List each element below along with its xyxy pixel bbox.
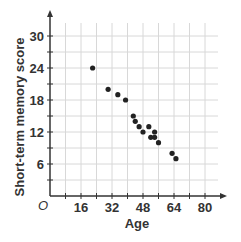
data-point (123, 97, 128, 102)
data-point (146, 124, 151, 129)
origin-label: O (38, 198, 48, 213)
data-point (140, 129, 145, 134)
data-point (169, 151, 174, 156)
y-tick-label: 30 (30, 29, 44, 44)
data-point (156, 140, 161, 145)
data-point (115, 92, 120, 97)
scatter-chart: 1632486480 612182430 O Age Short-term me… (0, 0, 241, 242)
y-tick-label: 18 (30, 93, 44, 108)
y-axis-arrow-icon (47, 10, 53, 17)
x-axis-arrow-icon (220, 193, 227, 199)
x-tick-label: 80 (198, 200, 212, 215)
y-tick-label: 24 (30, 61, 45, 76)
y-axis-title: Short-term memory score (12, 38, 27, 197)
x-tick-label: 16 (74, 200, 88, 215)
grid-lines (50, 23, 218, 196)
data-point (106, 87, 111, 92)
data-point (152, 129, 157, 134)
x-axis-title: Age (125, 216, 150, 231)
data-point (152, 135, 157, 140)
data-point (173, 156, 178, 161)
data-point (133, 119, 138, 124)
y-tick-label: 6 (37, 157, 44, 172)
data-point (131, 113, 136, 118)
data-point (137, 124, 142, 129)
data-point (90, 65, 95, 70)
data-points (90, 65, 179, 161)
y-tick-label: 12 (30, 125, 44, 140)
axes (47, 10, 227, 199)
x-tick-label: 32 (105, 200, 119, 215)
x-tick-label: 48 (136, 200, 150, 215)
x-tick-label: 64 (167, 200, 182, 215)
